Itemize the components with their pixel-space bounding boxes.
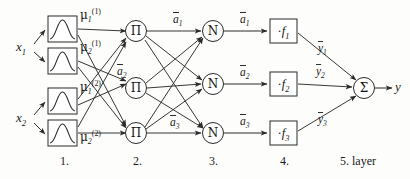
- norm-node-2-glyph: N: [206, 77, 220, 91]
- edge-label-a-bar-2-pre: a2: [117, 66, 127, 80]
- layer1-mf-boxes: [48, 16, 77, 146]
- norm-node-3-glyph: N: [206, 126, 220, 140]
- input-label-x2: x2: [16, 111, 26, 127]
- input-x2-subscript: 2: [22, 118, 26, 128]
- edge-label-a-bar-3: a3: [240, 116, 250, 130]
- layer-caption-3: 3.: [209, 155, 218, 167]
- network-graph: [0, 0, 410, 179]
- edges-input-to-layer1: [34, 30, 45, 134]
- product-node-2-glyph: Π: [129, 81, 143, 95]
- input-x1-subscript: 1: [22, 47, 26, 57]
- edge-label-a-bar-2: a2: [240, 67, 250, 81]
- output-label-y: y: [395, 80, 401, 93]
- product-node-1-glyph: Π: [129, 24, 143, 38]
- sum-node-glyph: Σ: [357, 81, 371, 95]
- mf-label-mf-x2-b: μ2(2): [80, 130, 101, 146]
- edge-label-y-bar-3: y3: [318, 114, 327, 128]
- anfis-network-figure: x1 x2 μ1(1) μ2(1) μ1(2) μ2(2) Π Π Π a1 a…: [0, 0, 410, 179]
- edge-label-y-bar-2: y2: [316, 66, 325, 80]
- product-node-3-glyph: Π: [129, 126, 143, 140]
- layer-caption-2: 2.: [133, 155, 142, 167]
- layer-caption-4: 4.: [280, 155, 289, 167]
- layer-caption-1: 1.: [60, 155, 69, 167]
- edges-layer4-to-layer5: [298, 33, 356, 131]
- norm-node-1-glyph: N: [206, 24, 220, 38]
- edge-label-y-bar-1: y1: [318, 43, 327, 57]
- edge-label-a-bar-1-pre: a1: [173, 14, 183, 28]
- edge-label-a-bar-1: a1: [240, 14, 250, 28]
- input-label-x1: x1: [16, 40, 26, 56]
- mf-label-mf-x2-a: μ1(2): [80, 80, 101, 96]
- consequent-node-2-glyph: ·f2: [270, 77, 297, 94]
- layer-caption-5: 5. layer: [340, 155, 376, 167]
- consequent-node-1-glyph: ·f1: [270, 24, 297, 41]
- mf-label-mf-x1-b: μ2(1): [80, 40, 101, 56]
- mf-label-mf-x1-a: μ1(1): [80, 8, 101, 24]
- edge-label-a-bar-3-pre: a3: [170, 117, 180, 131]
- consequent-node-3-glyph: ·f3: [270, 126, 297, 143]
